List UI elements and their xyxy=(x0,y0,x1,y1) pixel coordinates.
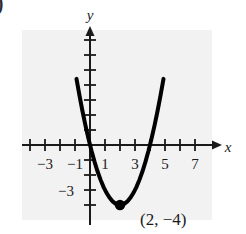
vertex-point-marker xyxy=(115,200,125,210)
vertex-point-label: (2, −4) xyxy=(140,210,186,229)
corner-parenthesis-marker: ) xyxy=(0,0,4,16)
x-tick-label: 3 xyxy=(131,156,139,172)
graph-figure: ) x − xyxy=(0,0,246,234)
y-axis-label: y xyxy=(85,7,94,23)
plot-panel-background xyxy=(22,30,212,220)
x-tick-label: 1 xyxy=(101,156,109,172)
y-tick-label: −3 xyxy=(58,183,74,199)
x-axis-arrowhead xyxy=(212,141,222,150)
coordinate-plane-svg: x −3 −1 1 3 5 7 xyxy=(0,0,246,234)
x-tick-label: 5 xyxy=(161,156,169,172)
x-tick-label: −1 xyxy=(67,156,83,172)
x-tick-label: −3 xyxy=(37,156,53,172)
x-axis-label: x xyxy=(224,139,232,155)
x-tick-label: 7 xyxy=(191,156,199,172)
